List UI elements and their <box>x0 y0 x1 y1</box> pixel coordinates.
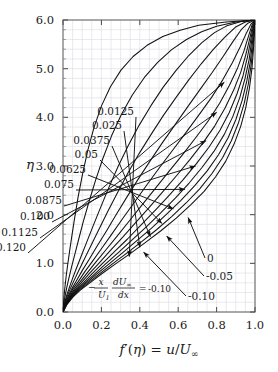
x-axis-title: f′(η) = u/U∞ <box>119 341 199 359</box>
equation-equals-sign: = <box>139 284 147 294</box>
y-tick-label: 0.0 <box>36 305 54 319</box>
x-tick-label: 0.0 <box>54 318 72 332</box>
falkner-skan-velocity-profile-figure: 0.00.20.40.60.81.0 0.01.02.03.04.05.06.0… <box>0 0 278 372</box>
curve-parameter-label: 0.0875 <box>25 194 62 206</box>
x-tick-label: 0.8 <box>207 318 225 332</box>
equation-value: -0.10 <box>148 284 171 294</box>
equation-minus-sign: − <box>88 282 96 292</box>
curve-parameter-label: 0.0125 <box>97 105 134 117</box>
curve-parameter-label: 0.075 <box>44 178 74 190</box>
curve-parameter-label: 0.120 <box>0 241 26 253</box>
y-axis-title: η <box>26 156 34 172</box>
y-tick-label: 1.0 <box>36 256 54 270</box>
y-tick-label: 5.0 <box>36 62 54 76</box>
curve-parameter-label: -0.10 <box>188 290 215 302</box>
equation-numerator-x: x <box>98 277 103 287</box>
curve-parameter-label: 0 <box>207 252 214 264</box>
curve-parameter-label: 0.05 <box>75 148 98 160</box>
x-tick-label: 1.0 <box>246 318 264 332</box>
y-tick-label: 6.0 <box>36 13 54 27</box>
x-tick-label: 0.2 <box>92 318 110 332</box>
curve-parameter-label: 0.1125 <box>1 226 38 238</box>
curve-parameter-label: -0.05 <box>206 270 233 282</box>
x-tick-label: 0.4 <box>131 318 149 332</box>
x-tick-label: 0.6 <box>169 318 187 332</box>
curve-parameter-label: 0.0625 <box>49 163 86 175</box>
equation-denominator-dx: dx <box>118 290 129 300</box>
curve-parameter-label: 0.0375 <box>73 134 110 146</box>
curve-parameter-label: 0.100 <box>20 210 50 222</box>
curve-parameter-label: 0.025 <box>92 119 122 131</box>
y-tick-label: 4.0 <box>36 110 54 124</box>
chart-canvas: 0.00.20.40.60.81.0 0.01.02.03.04.05.06.0… <box>0 0 278 372</box>
